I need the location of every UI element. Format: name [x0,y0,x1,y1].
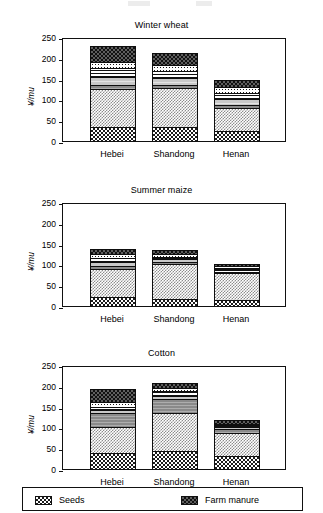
y-tick-mark [59,39,63,40]
figure-page: Winter wheat¥/mu050100150200250HebeiShan… [0,0,323,513]
y-tick-label: 150 [24,403,56,413]
bar-segment-farm-manure [215,420,259,424]
bar-segment-fertilizer [153,264,197,299]
y-tick-mark [59,429,63,430]
stacked-bar-shandong [152,383,198,469]
y-tick-label: 250 [24,33,56,43]
chart-title: Winter wheat [0,20,323,30]
bar-segment-irrigation [215,99,259,105]
bar-segment-seeds [91,453,135,469]
y-tick-mark [59,246,63,247]
bar-segment-seeds [91,297,135,306]
bar-segment-plastic-film [215,424,259,426]
bar-segment-pesticide [153,399,197,413]
chart-title: Cotton [0,348,323,358]
bar-segment-plastic-film [91,402,135,406]
y-tick-label: 100 [24,95,56,105]
bar-segment-plastic-film [91,62,135,69]
bar-segment-plastic-film [153,388,197,391]
coarse-checker-icon [181,496,198,505]
figure-legend: Seeds Farm manure [22,487,303,511]
y-tick-mark [59,450,63,451]
bar-segment-fertilizer [153,88,197,127]
y-tick-label: 250 [24,198,56,208]
bar-segment-seeds [215,456,259,469]
y-tick-mark [59,287,63,288]
bar-segment-farm-manure [91,389,135,403]
legend-label-seeds: Seeds [59,495,85,505]
stacked-bar-henan [214,80,260,141]
bar-segment-pesticide [215,429,259,433]
bar-segment-pesticide [91,266,135,268]
bar-segment-fertilizer [215,273,259,300]
bar-segment-pesticide [215,272,259,273]
bar-segment-farm-manure [153,250,197,254]
chart-title: Summer maize [0,185,323,195]
bar-segment-irrigation [153,396,197,399]
bar-segment-seeds [153,451,197,469]
y-tick-mark [59,204,63,205]
x-category-label-henan: Henan [191,477,281,487]
legend-item-seeds: Seeds [35,495,85,505]
bar-segment-fertilizer [91,269,135,297]
bar-segment-plastic-film [215,87,259,93]
bar-segment-pesticide [91,413,135,427]
bar-segment-fertilizer [91,427,135,453]
x-category-label-henan: Henan [191,314,281,324]
bar-segment-machinery [215,268,259,270]
chart-panel-3: Cotton¥/mu050100150200250HebeiShandongHe… [0,348,323,508]
bar-segment-irrigation [91,77,135,85]
bar-segment-machinery [215,425,259,427]
bar-segment-machinery [91,258,135,262]
bar-segment-irrigation [215,270,259,272]
y-tick-label: 150 [24,75,56,85]
y-tick-label: 100 [24,423,56,433]
y-tick-label: 0 [24,137,56,147]
bar-segment-pesticide [153,262,197,264]
bar-segment-seeds [153,127,197,141]
bar-segment-farm-manure [215,264,259,266]
bar-segment-plastic-film [153,65,197,71]
stacked-bar-henan [214,264,260,306]
bar-segment-seeds [215,131,259,141]
bar-segment-machinery [153,391,197,396]
bar-segment-machinery [91,407,135,410]
legend-item-farm-manure: Farm manure [181,495,259,505]
bar-segment-irrigation [91,410,135,414]
y-tick-label: 200 [24,54,56,64]
bar-segment-plastic-film [91,254,135,257]
bar-segment-farm-manure [153,383,197,388]
bar-segment-pesticide [91,85,135,89]
y-tick-label: 50 [24,281,56,291]
y-tick-label: 50 [24,444,56,454]
bar-segment-irrigation [91,262,135,266]
y-tick-mark [59,409,63,410]
y-tick-mark [59,266,63,267]
plot-area [62,366,286,470]
bar-segment-machinery [215,93,259,100]
stacked-bar-hebei [90,389,136,469]
bar-segment-pesticide [215,105,259,107]
bar-segment-farm-manure [153,53,197,65]
stacked-bar-hebei [90,249,136,306]
y-tick-mark [59,101,63,102]
y-tick-label: 50 [24,116,56,126]
y-tick-mark [59,81,63,82]
y-tick-mark [59,471,63,472]
bar-segment-fertilizer [215,108,259,131]
y-tick-label: 200 [24,219,56,229]
bar-segment-irrigation [215,427,259,429]
y-tick-mark [59,367,63,368]
bar-segment-machinery [91,68,135,76]
bar-segment-irrigation [153,259,197,261]
bar-segment-fertilizer [153,413,197,450]
chart-panel-2: Summer maize¥/mu050100150200250HebeiShan… [0,185,323,345]
stacked-bar-henan [214,420,260,470]
bar-segment-farm-manure [91,46,135,62]
stacked-bar-shandong [152,250,198,306]
y-tick-label: 150 [24,240,56,250]
y-tick-label: 100 [24,260,56,270]
y-tick-mark [59,60,63,61]
bar-segment-farm-manure [215,80,259,87]
x-category-label-henan: Henan [191,149,281,159]
